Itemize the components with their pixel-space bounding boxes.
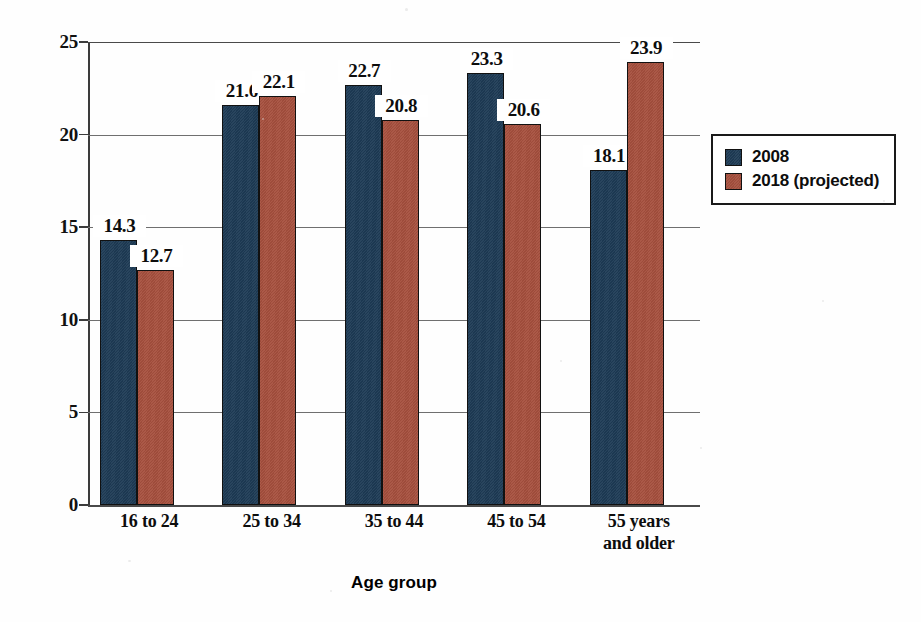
scan-speck [560,360,562,362]
bar-group: 18.123.9 [590,42,664,505]
y-axis-tick-label: 15 [59,216,78,238]
legend-item: 2008 [725,145,884,169]
x-axis-category-label: 45 to 54 [449,510,583,532]
y-axis-tick-mark [79,504,88,506]
legend-item: 2018 (projected) [725,169,884,193]
scan-speck [405,8,408,11]
x-axis-category-label-line: 16 to 24 [82,510,216,532]
y-axis-tick-mark [79,226,88,228]
x-axis-category-label: 16 to 24 [82,510,216,532]
bar-group: 21.622.1 [222,42,296,505]
bar [627,62,664,505]
x-axis-category-label: 55 yearsand older [572,510,706,554]
y-axis-tick-label: 0 [69,494,78,516]
y-axis-tick-mark [79,319,88,321]
scan-speck [883,200,885,202]
bar [590,170,627,505]
bar-value-label: 20.6 [497,99,550,121]
bar-value-label: 22.7 [338,60,391,82]
bar-value-label: 12.7 [130,245,183,267]
bar [467,73,504,505]
bar [222,105,259,505]
chart-legend: 2008 2018 (projected) [711,134,896,205]
chart-title-remnant [205,0,725,7]
y-axis-tick-label: 20 [59,124,78,146]
scan-speck [822,300,824,302]
bar-value-label: 23.9 [620,37,673,59]
legend-swatch-2008 [725,149,742,166]
scan-speck [330,590,332,592]
y-axis-tick-label: 25 [59,31,78,53]
y-axis-tick-mark [79,134,88,136]
legend-label-2018: 2018 (projected) [752,171,879,191]
scan-speck [128,560,131,562]
bar-value-label: 20.8 [375,95,428,117]
scan-speck [262,118,264,120]
y-axis-tick-label: 5 [69,401,78,423]
x-axis-category-labels: 16 to 2425 to 3435 to 4445 to 5455 years… [88,510,700,566]
bar [137,270,174,505]
x-axis-category-label-line: 55 years [572,510,706,532]
y-axis-tick-mark [79,41,88,43]
x-axis-title: Age group [88,573,700,593]
x-axis-category-label-line: 45 to 54 [449,510,583,532]
x-axis-category-label-line: and older [572,532,706,554]
bar [259,96,296,505]
bar-group: 14.312.7 [100,42,174,505]
x-axis-category-label-line: 25 to 34 [204,510,338,532]
bar-value-label: 14.3 [93,215,146,237]
bar-value-label: 22.1 [252,71,305,93]
x-axis-category-label: 25 to 34 [204,510,338,532]
y-axis-tick-label: 10 [59,309,78,331]
bar-chart: 0510152025 14.312.721.622.122.720.823.32… [0,0,921,622]
y-axis-tick-labels: 0510152025 [34,42,78,505]
bar [100,240,137,505]
legend-swatch-2018 [725,173,742,190]
bar-group: 23.320.6 [467,42,541,505]
x-axis-category-label-line: 35 to 44 [327,510,461,532]
legend-label-2008: 2008 [752,147,789,167]
gridline [88,505,700,507]
x-axis-category-label: 35 to 44 [327,510,461,532]
y-axis-tick-mark [79,412,88,414]
bar-group: 22.720.8 [345,42,419,505]
scan-speck [700,447,702,449]
plot-area: 14.312.721.622.122.720.823.320.618.123.9 [88,42,700,505]
bar-value-label: 23.3 [460,48,513,70]
bar [382,120,419,505]
bar [504,124,541,506]
bar [345,85,382,505]
